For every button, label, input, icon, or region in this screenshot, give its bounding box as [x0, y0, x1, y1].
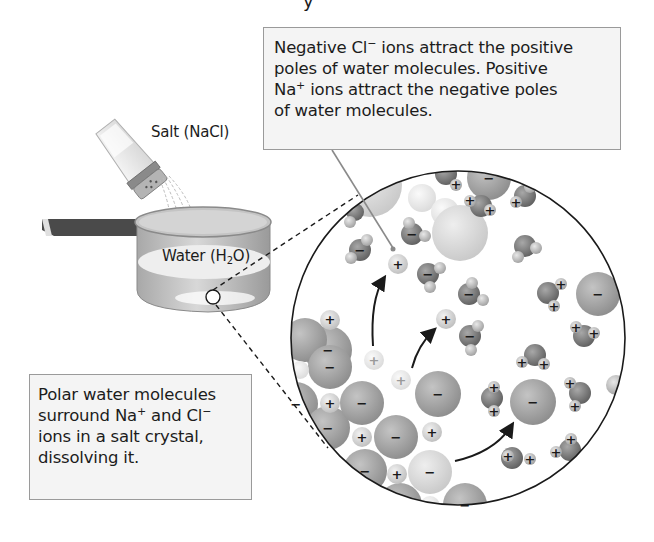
- svg-text:+: +: [396, 373, 407, 388]
- svg-text:+: +: [539, 357, 550, 372]
- callout-line: Negative Cl− ions attract the positive: [274, 37, 610, 58]
- svg-text:−: −: [593, 287, 604, 302]
- svg-text:−: −: [460, 498, 471, 513]
- salt-dissolving-diagram: y: [0, 0, 654, 542]
- svg-text:+: +: [525, 452, 536, 467]
- magnified-solution-view: [274, 150, 626, 527]
- svg-text:+: +: [427, 425, 438, 440]
- svg-text:+: +: [570, 399, 581, 414]
- svg-text:+: +: [485, 203, 496, 218]
- callout-line: Na+ ions attract the negative poles: [274, 79, 610, 100]
- svg-text:−: −: [423, 267, 434, 282]
- svg-text:+: +: [489, 404, 500, 419]
- svg-text:−: −: [528, 395, 539, 410]
- callout-dissolving: Polar water molecules surround Na+ and C…: [29, 374, 252, 500]
- svg-text:+: +: [551, 445, 562, 460]
- svg-text:−: −: [391, 430, 402, 445]
- svg-text:+: +: [465, 193, 476, 208]
- callout-line: of water molecules.: [274, 100, 610, 121]
- svg-text:+: +: [369, 353, 380, 368]
- svg-text:+: +: [566, 432, 577, 447]
- water-label: Water (H2O): [162, 247, 250, 265]
- svg-text:+: +: [549, 299, 560, 314]
- svg-text:+: +: [451, 177, 462, 192]
- svg-text:−: −: [464, 287, 475, 302]
- svg-text:−: −: [325, 360, 336, 375]
- svg-text:−: −: [484, 171, 495, 186]
- svg-text:−: −: [465, 329, 476, 344]
- svg-text:−: −: [291, 397, 302, 412]
- svg-text:+: +: [357, 430, 368, 445]
- callout-line: surround Na+ and Cl−: [38, 405, 243, 426]
- svg-text:+: +: [489, 380, 500, 395]
- svg-text:−: −: [323, 421, 334, 436]
- svg-text:+: +: [511, 195, 522, 210]
- svg-text:+: +: [392, 467, 403, 482]
- callout-line: ions in a salt crystal,: [38, 426, 243, 447]
- svg-text:−: −: [425, 465, 436, 480]
- callout-line: poles of water molecules. Positive: [274, 58, 610, 79]
- callout-line: dissolving it.: [38, 447, 243, 468]
- svg-text:+: +: [571, 320, 582, 335]
- callout-ion-attraction: Negative Cl− ions attract the positive p…: [263, 27, 621, 150]
- callout-line: Polar water molecules: [38, 384, 243, 405]
- svg-text:−: −: [323, 343, 334, 358]
- svg-text:+: +: [441, 312, 452, 327]
- svg-text:−: −: [355, 243, 366, 258]
- svg-text:+: +: [325, 396, 336, 411]
- svg-text:−: −: [357, 396, 368, 411]
- salt-label: Salt (NaCl): [151, 123, 229, 141]
- svg-text:−: −: [407, 227, 418, 242]
- svg-text:+: +: [503, 449, 514, 464]
- svg-text:−: −: [433, 387, 444, 402]
- svg-text:+: +: [325, 312, 336, 327]
- zoom-spot-marker: [206, 290, 220, 304]
- svg-text:−: −: [360, 464, 371, 479]
- svg-text:+: +: [565, 376, 576, 391]
- svg-text:+: +: [393, 257, 404, 272]
- svg-text:+: +: [589, 326, 600, 341]
- svg-text:+: +: [517, 355, 528, 370]
- svg-text:+: +: [556, 277, 567, 292]
